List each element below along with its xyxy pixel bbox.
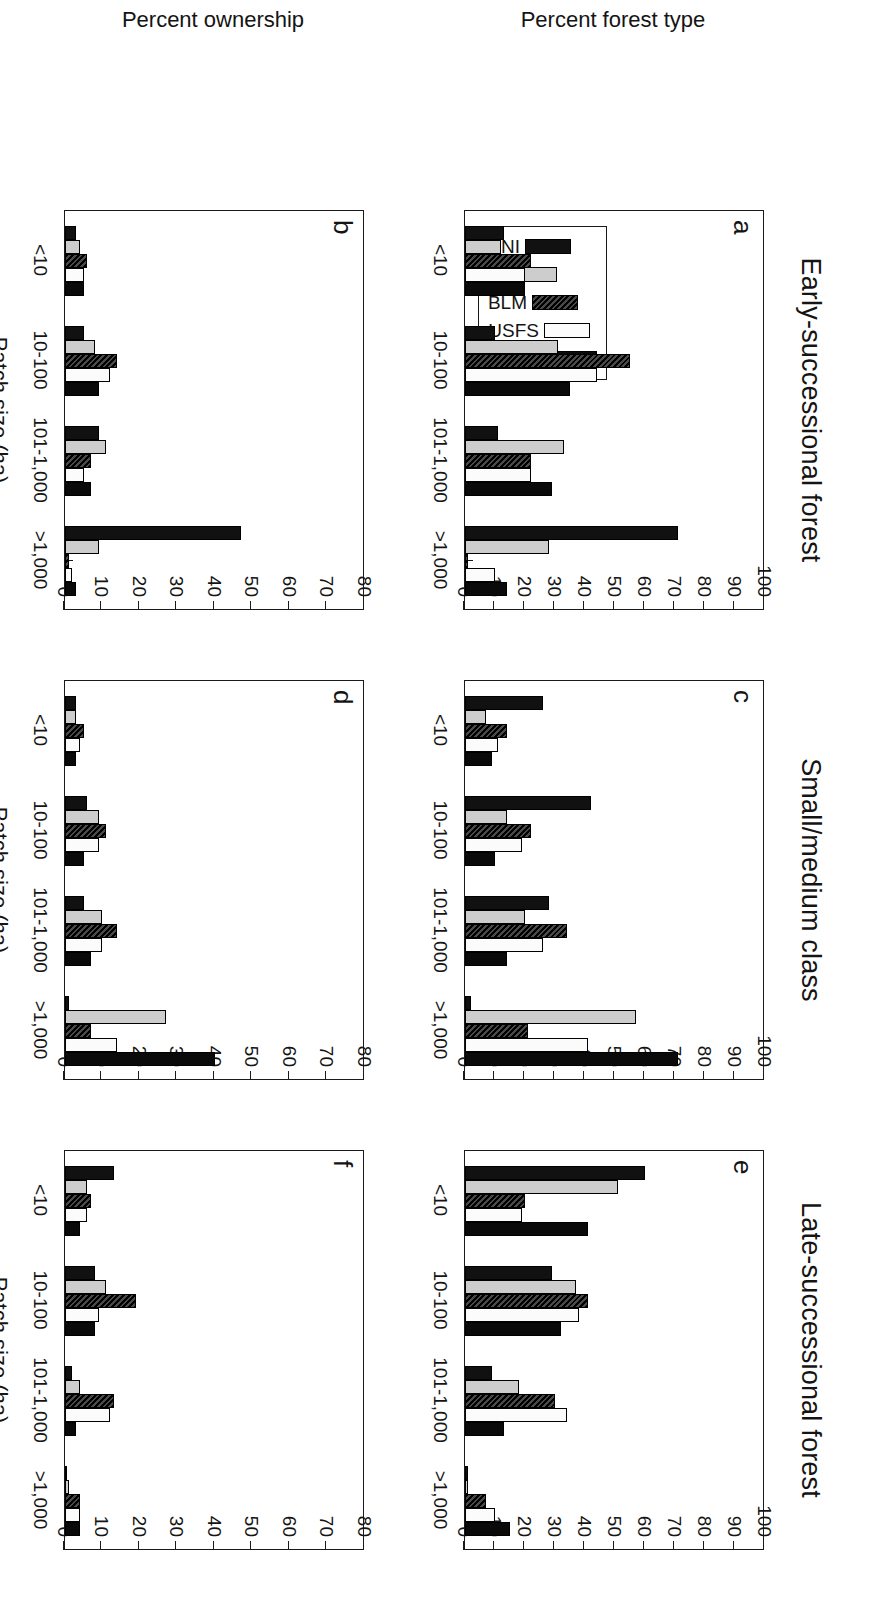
bar-d-1000-STATE bbox=[65, 1052, 215, 1066]
bar-a-1011000-USFS bbox=[465, 468, 531, 482]
bar-c-1000-USFS bbox=[465, 1038, 588, 1052]
bar-a-10100-STATE bbox=[465, 382, 570, 396]
ytick-label-f-70: 70 bbox=[317, 1516, 336, 1537]
bar-e-10100-BLM bbox=[465, 1294, 588, 1308]
panel-letter-b: b bbox=[327, 220, 358, 234]
bar-e-1000-PI bbox=[465, 1480, 468, 1494]
panel-c: c0102030405060708090100<1010-100101-1,00… bbox=[464, 680, 764, 1080]
bar-f-10-USFS bbox=[65, 1208, 88, 1222]
ytick-label-d-50: 50 bbox=[242, 1046, 261, 1067]
bar-e-1011000-PNI bbox=[465, 1366, 492, 1380]
bar-d-10-PI bbox=[65, 710, 76, 724]
ytick-f-0 bbox=[63, 1541, 64, 1550]
bar-a-1000-STATE bbox=[465, 582, 507, 596]
panel-b: b01020304050607080<1010-100101-1,000>1,0… bbox=[64, 210, 364, 610]
bar-f-1011000-PNI bbox=[65, 1366, 73, 1380]
ytick-label-d-70: 70 bbox=[317, 1046, 336, 1067]
xaxis-title-b: Patch size (ha) bbox=[0, 210, 12, 610]
bar-e-10100-PNI bbox=[465, 1266, 552, 1280]
bar-c-1011000-BLM bbox=[465, 924, 567, 938]
ytick-a-0 bbox=[463, 601, 464, 610]
panel-letter-d: d bbox=[327, 690, 358, 704]
column-title-1: Small/medium class bbox=[795, 660, 826, 1100]
ytick-e-90 bbox=[733, 1541, 734, 1550]
bar-d-1011000-PNI bbox=[65, 896, 84, 910]
ytick-a-40 bbox=[583, 601, 584, 610]
ytick-label-e-80: 80 bbox=[695, 1516, 714, 1537]
ytick-label-f-50: 50 bbox=[242, 1516, 261, 1537]
xtick-label-d-3: >1,000 bbox=[31, 1001, 50, 1060]
bar-a-1000-BLM bbox=[465, 554, 468, 568]
bar-d-10-STATE bbox=[65, 752, 76, 766]
plot-area-a bbox=[464, 210, 764, 610]
rotated-figure-wrapper: Early-successional forestSmall/medium cl… bbox=[0, 0, 884, 1620]
ytick-a-50 bbox=[613, 601, 614, 610]
xtick-label-e-0: <10 bbox=[431, 1184, 450, 1216]
bar-d-10100-BLM bbox=[65, 824, 106, 838]
xtick-label-a-3: >1,000 bbox=[431, 531, 450, 590]
bar-a-1011000-PNI bbox=[465, 426, 498, 440]
ytick-label-e-90: 90 bbox=[725, 1516, 744, 1537]
row-ylabel-0: Percent forest type bbox=[483, 7, 743, 33]
legend-swatch-PNI bbox=[525, 239, 571, 254]
figure-canvas: Early-successional forestSmall/medium cl… bbox=[0, 0, 884, 1620]
legend-item-USFS[interactable]: USFS bbox=[488, 321, 590, 340]
panel-f: f01020304050607080<1010-100101-1,000>1,0… bbox=[64, 1150, 364, 1550]
ytick-d-40 bbox=[213, 1071, 214, 1080]
bar-d-10-PNI bbox=[65, 696, 76, 710]
ytick-f-20 bbox=[138, 1541, 139, 1550]
xtick-label-a-1: 10-100 bbox=[431, 330, 450, 389]
bar-a-1011000-BLM bbox=[465, 454, 531, 468]
bar-c-10100-USFS bbox=[465, 838, 522, 852]
ytick-label-b-60: 60 bbox=[280, 576, 299, 597]
ytick-d-10 bbox=[101, 1071, 102, 1080]
ytick-label-c-90: 90 bbox=[725, 1046, 744, 1067]
ytick-f-50 bbox=[251, 1541, 252, 1550]
ytick-d-30 bbox=[176, 1071, 177, 1080]
plot-area-c bbox=[464, 680, 764, 1080]
ytick-b-30 bbox=[176, 601, 177, 610]
bar-a-10-PI bbox=[465, 240, 501, 254]
bar-e-1011000-BLM bbox=[465, 1394, 555, 1408]
ytick-b-0 bbox=[63, 601, 64, 610]
bar-b-1000-PNI bbox=[65, 526, 241, 540]
xtick-label-e-1: 10-100 bbox=[431, 1270, 450, 1329]
xtick-label-f-1: 10-100 bbox=[31, 1270, 50, 1329]
ytick-d-50 bbox=[251, 1071, 252, 1080]
ytick-e-30 bbox=[553, 1541, 554, 1550]
xtick-label-b-3: >1,000 bbox=[31, 531, 50, 590]
panel-a: a0102030405060708090100<1010-100101-1,00… bbox=[464, 210, 764, 610]
xtick-label-e-3: >1,000 bbox=[431, 1471, 450, 1530]
ytick-c-80 bbox=[703, 1071, 704, 1080]
bar-d-1011000-STATE bbox=[65, 952, 91, 966]
bar-b-10100-PI bbox=[65, 340, 95, 354]
ytick-c-50 bbox=[613, 1071, 614, 1080]
bar-a-10-BLM bbox=[465, 254, 531, 268]
bar-b-1011000-PI bbox=[65, 440, 106, 454]
bar-b-10-PNI bbox=[65, 226, 76, 240]
bar-e-1011000-USFS bbox=[465, 1408, 567, 1422]
ytick-c-0 bbox=[463, 1071, 464, 1080]
xtick-label-c-1: 10-100 bbox=[431, 800, 450, 859]
xtick-label-f-0: <10 bbox=[31, 1184, 50, 1216]
bar-c-10100-PNI bbox=[465, 796, 591, 810]
bar-f-10100-PNI bbox=[65, 1266, 95, 1280]
bar-a-1000-PNI bbox=[465, 526, 678, 540]
ytick-e-50 bbox=[613, 1541, 614, 1550]
bar-f-10100-BLM bbox=[65, 1294, 136, 1308]
column-title-0: Early-successional forest bbox=[795, 190, 826, 630]
ytick-b-70 bbox=[326, 601, 327, 610]
bar-c-1011000-PNI bbox=[465, 896, 549, 910]
bar-a-10100-USFS bbox=[465, 368, 597, 382]
bar-d-1000-BLM bbox=[65, 1024, 91, 1038]
bar-a-1000-USFS bbox=[465, 568, 495, 582]
bar-d-1000-USFS bbox=[65, 1038, 118, 1052]
xtick-label-d-2: 101-1,000 bbox=[31, 887, 50, 973]
ytick-label-a-80: 80 bbox=[695, 576, 714, 597]
xtick-label-c-2: 101-1,000 bbox=[431, 887, 450, 973]
xtick-label-a-2: 101-1,000 bbox=[431, 417, 450, 503]
ytick-label-e-100: 100 bbox=[755, 1505, 774, 1537]
ytick-label-b-30: 30 bbox=[167, 576, 186, 597]
ytick-e-0 bbox=[463, 1541, 464, 1550]
bar-d-1000-PNI bbox=[65, 996, 69, 1010]
